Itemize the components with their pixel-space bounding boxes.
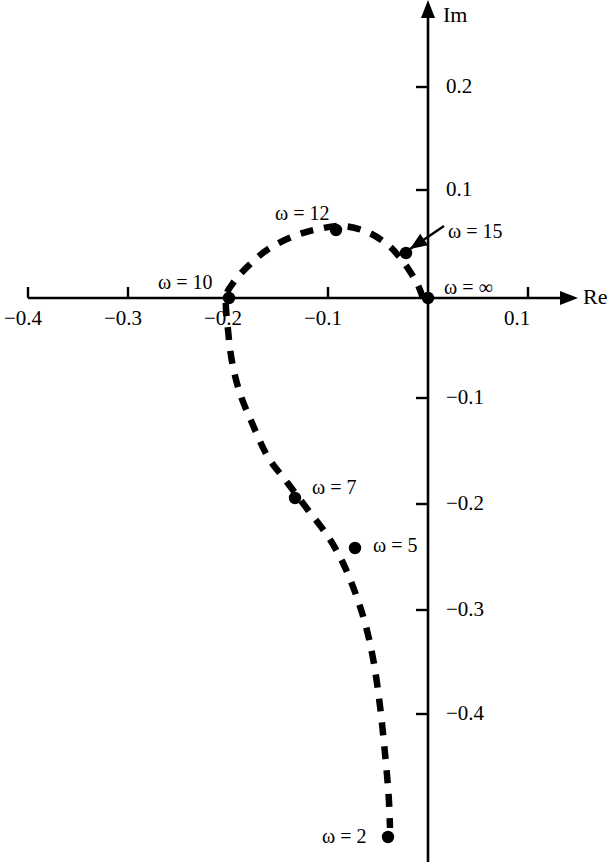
omega-marker-dot [223, 292, 235, 304]
x-tick-label: −0.2 [204, 308, 242, 329]
y-tick-label: −0.2 [446, 493, 484, 514]
imag-axis-arrowhead [421, 0, 435, 18]
y-tick-label: −0.3 [446, 599, 484, 620]
omega-label: ω = 10 [158, 272, 212, 292]
x-tick-label: 0.1 [504, 308, 530, 329]
imag-axis-ticks [416, 87, 428, 714]
real-axis-arrowhead [560, 291, 578, 305]
x-tick-label: −0.1 [304, 308, 342, 329]
omega-marker-dot [289, 492, 301, 504]
imag-axis-label: Im [443, 4, 467, 26]
x-tick-label: −0.3 [104, 308, 142, 329]
axis-group [28, 0, 578, 862]
y-tick-label: 0.1 [446, 179, 472, 200]
omega-label: ω = 12 [275, 203, 329, 223]
y-tick-label: 0.2 [446, 76, 472, 97]
omega-marker-dot [422, 292, 434, 304]
omega-label: ω = 15 [448, 221, 502, 241]
omega-marker-dot [349, 542, 361, 554]
omega-marker-dot [382, 831, 394, 843]
real-axis-label: Re [583, 286, 607, 308]
x-tick-label: −0.4 [4, 308, 42, 329]
omega-label: ω = 2 [322, 826, 366, 846]
y-tick-label: −0.1 [446, 387, 484, 408]
y-tick-label: −0.4 [446, 703, 484, 724]
omega-label: ω = 5 [373, 535, 417, 555]
omega-marker-dot [330, 224, 342, 236]
annotation-arrowhead [410, 234, 428, 249]
omega-label: ω = 7 [312, 477, 356, 497]
omega-label: ω = ∞ [444, 277, 493, 297]
